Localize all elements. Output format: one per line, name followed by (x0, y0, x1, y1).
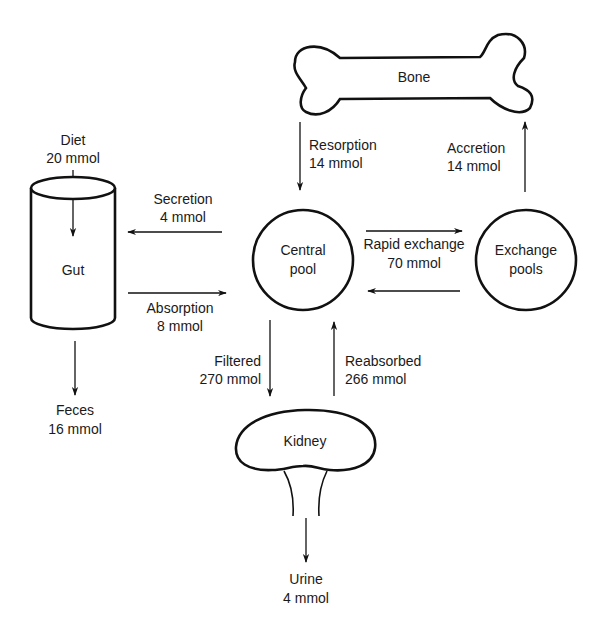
ureter-right (319, 471, 327, 516)
exchange-pools-node: Exchange pools (476, 210, 576, 310)
absorption-amount: 8 mmol (157, 318, 203, 334)
diet-amount: 20 mmol (46, 150, 100, 166)
secretion-name: Secretion (153, 191, 212, 207)
calcium-flow-diagram: Bone Resorption 14 mmol Accretion 14 mmo… (0, 0, 605, 627)
central-pool-node: Central pool (253, 210, 353, 310)
absorption-name: Absorption (147, 300, 214, 316)
secretion-amount: 4 mmol (160, 209, 206, 225)
central-pool-label-line2: pool (290, 261, 316, 277)
resorption-amount: 14 mmol (309, 155, 363, 171)
gut-label: Gut (62, 262, 85, 278)
resorption-name: Resorption (309, 137, 377, 153)
exchange-pools-label-line1: Exchange (495, 242, 557, 258)
bone-label: Bone (398, 69, 431, 85)
exchange-pools-label-line2: pools (509, 261, 542, 277)
gut-node: Gut (31, 177, 115, 329)
feces-name: Feces (56, 402, 94, 418)
urine-amount: 4 mmol (283, 590, 329, 606)
filtered-amount: 270 mmol (200, 371, 261, 387)
ureter-left (284, 471, 293, 516)
rapid-exchange-amount: 70 mmol (387, 255, 441, 271)
feces-amount: 16 mmol (48, 421, 102, 437)
rapid-exchange-name: Rapid exchange (363, 236, 464, 252)
reabsorbed-amount: 266 mmol (345, 371, 406, 387)
kidney-node: Kidney (236, 410, 375, 516)
filtered-name: Filtered (214, 353, 261, 369)
kidney-label: Kidney (284, 433, 327, 449)
diet-name: Diet (61, 132, 86, 148)
accretion-amount: 14 mmol (447, 158, 501, 174)
accretion-name: Accretion (447, 140, 505, 156)
central-pool-label-line1: Central (280, 242, 325, 258)
urine-name: Urine (289, 571, 323, 587)
reabsorbed-name: Reabsorbed (345, 353, 421, 369)
bone-node: Bone (294, 34, 532, 114)
